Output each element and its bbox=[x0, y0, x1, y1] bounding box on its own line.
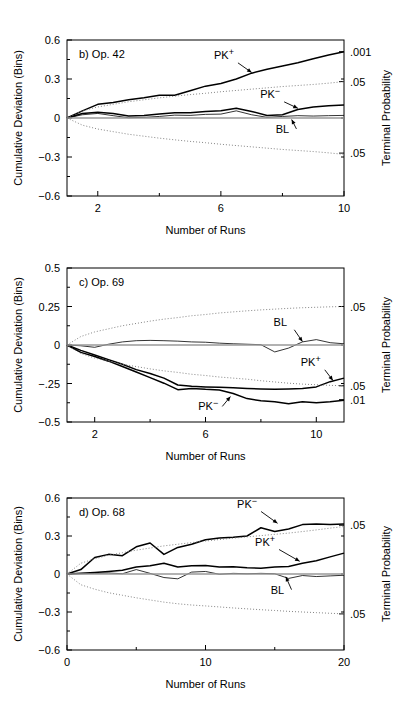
annotation-arrowhead bbox=[273, 519, 278, 523]
plot-frame-d bbox=[67, 498, 344, 650]
annotation-arrowhead bbox=[295, 557, 300, 561]
series-PK+ bbox=[67, 553, 344, 574]
y-tick-label: 0 bbox=[54, 568, 60, 580]
y-axis-title-right: Terminal Probability bbox=[380, 526, 392, 622]
series-label-PK+: PK+ bbox=[255, 534, 275, 548]
right-tick-label: .05 bbox=[350, 519, 365, 531]
y-tick-label: 0.3 bbox=[45, 530, 60, 542]
chart-panel-d: −0.6−0.300.30.601020.05.05PK−PK+BLd) Op.… bbox=[0, 0, 403, 706]
annotation-arrow bbox=[261, 512, 277, 524]
annotation-arrow bbox=[286, 577, 292, 590]
panel-title-d: d) Op. 68 bbox=[79, 506, 125, 518]
y-tick-label: −0.6 bbox=[38, 644, 60, 656]
figure-container: −0.6−0.300.30.62610.001.05.05PK+PK−BLb) … bbox=[0, 0, 403, 706]
right-tick-label: .05 bbox=[350, 608, 365, 620]
series-BL bbox=[67, 570, 344, 579]
series-label-PK-: PK− bbox=[237, 496, 257, 510]
x-tick-label: 20 bbox=[338, 656, 350, 668]
series-lower-envelope bbox=[67, 574, 344, 614]
series-label-BL: BL bbox=[271, 584, 284, 596]
annotation-arrowhead bbox=[286, 577, 290, 582]
y-axis-title-left: Cumulative Deviation (Bins) bbox=[12, 506, 24, 642]
y-tick-label: 0.6 bbox=[45, 492, 60, 504]
y-tick-label: −0.3 bbox=[38, 606, 60, 618]
annotation-arrow bbox=[279, 550, 300, 562]
series-PK- bbox=[67, 524, 344, 574]
x-tick-label: 10 bbox=[199, 656, 211, 668]
series-upper-envelope bbox=[67, 527, 344, 575]
x-axis-title: Number of Runs bbox=[165, 678, 246, 690]
x-tick-label: 0 bbox=[64, 656, 70, 668]
